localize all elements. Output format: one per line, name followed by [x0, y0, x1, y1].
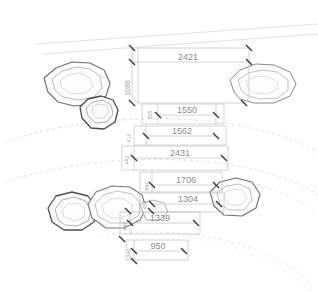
dim-label-1550: 1550: [177, 105, 197, 115]
boulder-upper-right: [230, 64, 296, 103]
dim-label-v-305: 305: [147, 110, 153, 119]
boulder-upper-left-small: [80, 96, 118, 129]
boulder-lower-left-small: [48, 192, 96, 230]
dim-label-v-1086: 1086: [124, 80, 131, 96]
boundary-lines: [36, 24, 318, 54]
dim-label-950: 950: [150, 241, 165, 251]
dim-label-2421: 2421: [178, 52, 198, 62]
contour-mid-2: [6, 159, 318, 195]
dimension-labels: 2421 1550 1562 2431 1706 1304 1339 950: [150, 52, 198, 251]
dim-label-v-406: 406: [142, 200, 148, 209]
dim-label-1562: 1562: [172, 126, 192, 136]
dim-label-v-240: 240: [126, 248, 132, 257]
dim-label-1706: 1706: [176, 175, 196, 185]
dim-label-1339: 1339: [150, 213, 170, 223]
boulder-lower-right: [210, 178, 260, 216]
drawing-canvas: 2421 1550 1562 2431 1706 1304 1339 950 1…: [0, 0, 318, 292]
dim-label-1304: 1304: [178, 194, 198, 204]
dim-label-v-460: 460: [122, 221, 128, 230]
dimension-labels-vertical: 1086 442 414 684 305 406 460 240: [122, 80, 153, 257]
cad-drawing-svg: 2421 1550 1562 2431 1706 1304 1339 950 1…: [0, 0, 318, 292]
dim-label-v-684: 684: [144, 181, 150, 190]
contour-bottom-2: [182, 236, 312, 290]
dim-label-v-414: 414: [126, 133, 132, 142]
dim-label-v-442: 442: [124, 155, 130, 164]
dim-label-2431: 2431: [170, 148, 190, 158]
